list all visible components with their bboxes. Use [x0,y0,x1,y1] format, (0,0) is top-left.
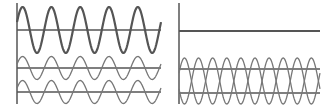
component-wave-1 [179,58,320,104]
constructive-panel [17,3,161,104]
component-wave-2 [179,58,320,104]
destructive-panel [179,3,320,104]
interference-diagram [0,0,336,112]
